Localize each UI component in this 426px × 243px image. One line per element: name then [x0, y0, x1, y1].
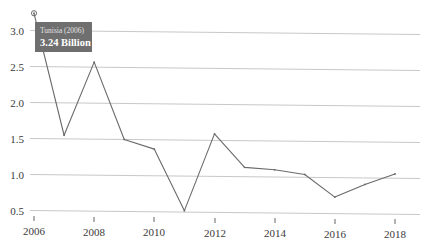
tooltip-value: 3.24 Billion [40, 37, 91, 48]
y-tick-label-2-0: 2.0 [10, 97, 24, 109]
x-tick-label-2008: 2008 [83, 226, 106, 238]
x-tick-label-2012: 2012 [204, 227, 226, 239]
chart-canvas: 3.0 2.5 2.0 1.5 1.0 0.5 2006 2008 2010 2… [0, 0, 426, 243]
y-tick-label-3-0: 3.0 [10, 25, 24, 37]
data-point-2018[interactable] [394, 173, 396, 175]
x-tick-label-2018: 2018 [384, 228, 407, 240]
tooltip[interactable]: Tunisia (2006) 3.24 Billion [35, 22, 92, 52]
x-tick-label-2006: 2006 [23, 225, 46, 237]
y-tick-label-1-0: 1.0 [10, 169, 24, 181]
x-tick-label-2010: 2010 [143, 226, 166, 238]
data-point-2006[interactable] [33, 12, 35, 14]
data-point-2013[interactable] [244, 166, 246, 168]
data-point-2009[interactable] [123, 139, 125, 141]
y-tick-label-2-5: 2.5 [10, 61, 24, 73]
data-point-2010[interactable] [153, 148, 155, 150]
data-point-2014[interactable] [274, 169, 276, 171]
data-point-2011[interactable] [184, 210, 186, 212]
line-chart: 3.0 2.5 2.0 1.5 1.0 0.5 2006 2008 2010 2… [0, 0, 426, 243]
data-point-2016[interactable] [334, 196, 336, 198]
x-tick-label-2014: 2014 [264, 227, 287, 239]
data-point-2008[interactable] [93, 61, 95, 63]
y-tick-label-0-5: 0.5 [10, 205, 24, 217]
data-point-2015[interactable] [304, 174, 306, 176]
data-point-2012[interactable] [214, 133, 216, 135]
data-point-2017[interactable] [364, 184, 366, 186]
y-tick-label-1-5: 1.5 [10, 133, 24, 145]
x-tick-label-2016: 2016 [324, 228, 347, 240]
data-point-2007[interactable] [63, 134, 65, 136]
tooltip-title: Tunisia (2006) [40, 26, 85, 35]
